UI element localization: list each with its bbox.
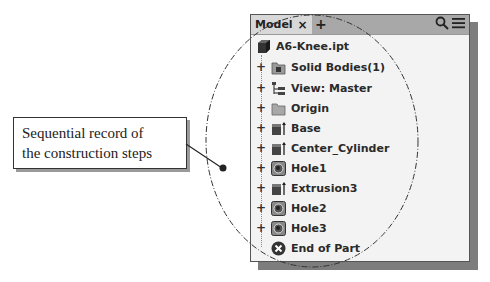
annotation-overlay <box>0 0 490 282</box>
leader-line <box>186 144 222 168</box>
leader-dot <box>220 165 227 172</box>
highlight-circle <box>206 15 418 267</box>
